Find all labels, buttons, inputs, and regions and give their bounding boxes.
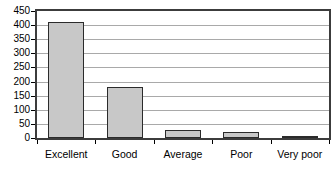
- x-axis-tick-mark: [154, 140, 155, 144]
- bar-slot: [212, 11, 270, 138]
- y-axis-tick-label: 250: [0, 62, 30, 72]
- y-axis-tick-label: 150: [0, 91, 30, 101]
- y-axis-tick-label: 200: [0, 77, 30, 87]
- y-axis-tick-label: 50: [0, 119, 30, 129]
- y-axis-tick-label: 400: [0, 20, 30, 30]
- x-axis-tick-mark: [95, 140, 96, 144]
- bars-layer: [37, 11, 329, 138]
- x-axis-tick-label: Good: [95, 148, 153, 161]
- x-axis-tick-label: Excellent: [37, 148, 95, 161]
- y-axis-tick-label: 350: [0, 34, 30, 44]
- x-axis-tick-mark: [329, 140, 330, 144]
- bar: [223, 132, 259, 138]
- x-axis-tick-label: Poor: [212, 148, 270, 161]
- x-axis-tick-label: Average: [154, 148, 212, 161]
- bar-slot: [95, 11, 153, 138]
- y-axis: 050100150200250300350400450: [0, 0, 30, 145]
- bar: [282, 136, 318, 139]
- x-axis-tick-label: Very poor: [271, 148, 329, 161]
- plot-area: [35, 9, 331, 140]
- bar: [107, 87, 143, 138]
- x-axis-tick-mark: [271, 140, 272, 144]
- y-axis-tick-label: 0: [0, 133, 30, 143]
- y-axis-tick-label: 450: [0, 6, 30, 16]
- x-axis: ExcellentGoodAveragePoorVery poor: [35, 148, 331, 164]
- x-axis-tick-mark: [212, 140, 213, 144]
- x-axis-tick-mark: [37, 140, 38, 144]
- bar-chart: 050100150200250300350400450 ExcellentGoo…: [0, 0, 336, 172]
- bar-slot: [154, 11, 212, 138]
- y-axis-tick-label: 300: [0, 48, 30, 58]
- x-axis-tick-marks: [35, 140, 331, 145]
- y-axis-tick-label: 100: [0, 105, 30, 115]
- bar-slot: [271, 11, 329, 138]
- bar-slot: [37, 11, 95, 138]
- bar: [48, 22, 84, 138]
- bar: [165, 130, 201, 138]
